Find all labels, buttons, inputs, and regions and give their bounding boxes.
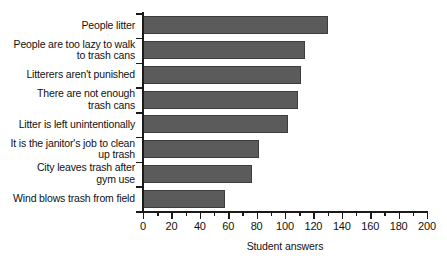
category-label: Litter is left unintentionally	[0, 112, 138, 137]
x-axis-tick-major	[257, 213, 258, 219]
bar	[143, 66, 301, 84]
x-axis-tick-major	[143, 213, 144, 219]
x-axis-tick-major	[399, 213, 400, 219]
x-axis-tick-minor	[271, 213, 272, 217]
category-label: Litterers aren't punished	[0, 63, 138, 88]
category-label: People are too lazy to walk to trash can…	[0, 38, 138, 63]
bar-row	[143, 13, 427, 38]
plot-area	[143, 13, 427, 211]
x-axis-tick-major	[171, 213, 172, 219]
bar	[143, 165, 252, 183]
x-axis-tick-minor	[356, 213, 357, 217]
x-axis-tick-label: 60	[222, 220, 234, 232]
bar	[143, 91, 298, 109]
bar	[143, 41, 305, 59]
y-axis-tick	[136, 211, 142, 213]
bar-row	[143, 162, 427, 187]
x-axis-tick-major	[427, 213, 428, 219]
x-axis-tick-label: 100	[276, 220, 294, 232]
x-axis-tick-minor	[328, 213, 329, 217]
x-axis-tick-label: 20	[165, 220, 177, 232]
x-axis-tick-label: 180	[390, 220, 408, 232]
x-axis-tick-minor	[214, 213, 215, 217]
x-axis-tick-label: 80	[251, 220, 263, 232]
y-axis-tick	[136, 162, 142, 164]
category-label: People litter	[0, 13, 138, 38]
category-axis-labels: People litterPeople are too lazy to walk…	[0, 13, 138, 211]
x-axis-tick-minor	[299, 213, 300, 217]
x-axis-tick-label: 0	[140, 220, 146, 232]
x-axis-tick-major	[228, 213, 229, 219]
y-axis-tick	[136, 186, 142, 188]
x-axis-title: Student answers	[143, 240, 427, 252]
x-axis-tick-label: 40	[194, 220, 206, 232]
bar-row	[143, 137, 427, 162]
bar-row	[143, 38, 427, 63]
x-axis-tick-major	[370, 213, 371, 219]
category-label: It is the janitor's job to clean up tras…	[0, 137, 138, 162]
category-label: Wind blows trash from field	[0, 186, 138, 211]
bar	[143, 190, 225, 208]
x-axis-tick-major	[342, 213, 343, 219]
x-axis-tick-label: 160	[361, 220, 379, 232]
bar-row	[143, 87, 427, 112]
x-axis-tick-major	[200, 213, 201, 219]
category-label: There are not enough trash cans	[0, 87, 138, 112]
x-axis-tick-minor	[242, 213, 243, 217]
x-axis-tick-minor	[186, 213, 187, 217]
y-axis-tick	[136, 137, 142, 139]
x-axis-tick-label: 140	[333, 220, 351, 232]
y-axis-tick	[136, 63, 142, 65]
x-axis-tick-major	[313, 213, 314, 219]
x-axis-tick-minor	[413, 213, 414, 217]
y-axis-tick	[136, 87, 142, 89]
y-axis-line	[142, 12, 144, 212]
x-axis-tick-minor	[157, 213, 158, 217]
y-axis-tick	[136, 13, 142, 15]
y-axis-tick	[136, 112, 142, 114]
bar	[143, 140, 259, 158]
bar-row	[143, 112, 427, 137]
bar-row	[143, 186, 427, 211]
x-axis-tick-minor	[384, 213, 385, 217]
x-axis-tick-label: 200	[418, 220, 436, 232]
bar-row	[143, 63, 427, 88]
category-label: City leaves trash after gym use	[0, 162, 138, 187]
x-axis-tick-label: 120	[305, 220, 323, 232]
x-axis-tick-major	[285, 213, 286, 219]
bar	[143, 115, 288, 133]
bar	[143, 16, 328, 34]
horizontal-bar-chart: People litterPeople are too lazy to walk…	[0, 0, 447, 260]
y-axis-tick	[136, 38, 142, 40]
